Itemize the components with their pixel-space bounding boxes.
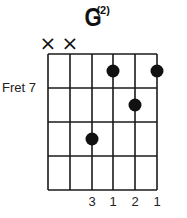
dot-string4-fret1 <box>107 65 120 78</box>
finger-number: 3 <box>85 194 99 209</box>
dot-string3-fret3 <box>86 133 99 146</box>
fretboard-lines <box>48 54 157 190</box>
chord-grid <box>0 0 187 218</box>
finger-dots <box>86 65 164 146</box>
finger-number: 2 <box>128 194 142 209</box>
finger-number: 1 <box>106 194 120 209</box>
finger-number: 1 <box>150 194 164 209</box>
dot-string6-fret1 <box>151 65 164 78</box>
dot-string5-fret2 <box>129 99 142 112</box>
